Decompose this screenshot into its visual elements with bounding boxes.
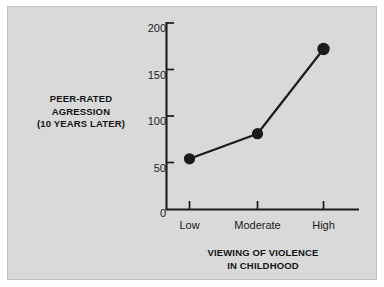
- plot-area: 200 150 100 50 0 Low Moderate High: [8, 7, 377, 280]
- x-tick-label-high: High: [294, 220, 354, 231]
- y-axis-ticks: [167, 23, 174, 163]
- chart-figure: PEER-RATED AGRESSION (10 YEARS LATER): [0, 0, 384, 287]
- x-tick-label-low: Low: [160, 220, 220, 231]
- data-point-low: [184, 153, 195, 164]
- x-tick-label-moderate: Moderate: [228, 220, 288, 231]
- data-point-high: [317, 43, 329, 55]
- x-axis-title-line-2: IN CHILDHOOD: [148, 260, 377, 273]
- plot-graphics: [7, 6, 377, 280]
- x-axis-ticks: [190, 201, 324, 209]
- y-tick-label-0: 0: [132, 208, 166, 219]
- chart-panel: PEER-RATED AGRESSION (10 YEARS LATER): [7, 6, 377, 280]
- x-axis-title-line-1: VIEWING OF VIOLENCE: [148, 247, 377, 260]
- y-tick-label-100: 100: [132, 116, 166, 127]
- y-tick-label-200: 200: [132, 23, 166, 34]
- y-tick-label-50: 50: [132, 163, 166, 174]
- data-markers: [184, 43, 330, 165]
- data-point-moderate: [252, 128, 263, 139]
- x-axis-title: VIEWING OF VIOLENCE IN CHILDHOOD: [148, 247, 377, 272]
- data-line: [190, 49, 324, 159]
- y-tick-label-150: 150: [132, 70, 166, 81]
